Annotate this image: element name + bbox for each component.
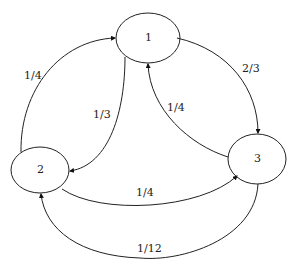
node-2-label: 2 [37, 163, 44, 176]
edge-2-to-1-label: 1/4 [24, 69, 42, 82]
edge-3-to-1-label: 1/4 [167, 101, 185, 114]
edge-3-to-1 [148, 64, 228, 157]
edge-2-to-1 [21, 38, 115, 152]
edge-1-to-3 [177, 38, 258, 133]
edge-3-to-2-label: 1/12 [137, 242, 162, 255]
node-3-label: 3 [254, 152, 261, 165]
node-1-label: 1 [145, 31, 152, 44]
edge-2-to-3-label: 1/4 [136, 186, 154, 199]
edge-1-to-2-label: 1/3 [93, 108, 111, 121]
edge-1-to-3-label: 2/3 [242, 62, 260, 75]
